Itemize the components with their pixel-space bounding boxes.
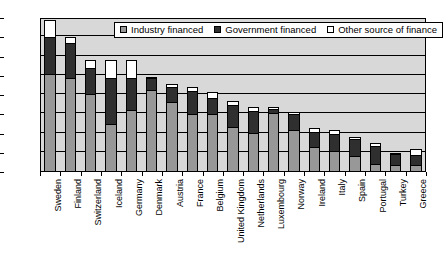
bar-stack xyxy=(370,143,381,172)
y-axis-tick-mark xyxy=(0,95,4,96)
x-axis-label-luxembourg: Luxembourg xyxy=(277,179,286,229)
bar-segment-industry xyxy=(65,78,76,172)
y-axis-tick-mark xyxy=(0,153,4,154)
x-axis-label-switzerland: Switzerland xyxy=(94,179,103,226)
y-axis: 0.00.51.01.52.02.53.03.54.0 xyxy=(0,0,40,190)
bar-segment-government xyxy=(309,132,320,147)
legend-label: Other source of finance xyxy=(338,25,437,35)
bar-segment-other xyxy=(105,60,116,77)
bar-stack xyxy=(268,107,279,172)
x-axis-label-iceland: Iceland xyxy=(115,179,124,208)
x-axis-tick-mark xyxy=(385,172,386,176)
y-axis-tick-mark xyxy=(0,114,4,115)
bar-stack xyxy=(126,60,137,172)
x-axis-label-finland: Finland xyxy=(74,179,83,209)
x-axis-tick-mark xyxy=(142,172,143,176)
bar-segment-government xyxy=(227,105,238,127)
x-axis-label-greece: Greece xyxy=(419,179,428,209)
bar-segment-government xyxy=(390,154,401,165)
bar-stack xyxy=(309,128,320,172)
x-axis-label-ireland: Ireland xyxy=(318,179,327,207)
bar-stack xyxy=(65,37,76,172)
bar-stack xyxy=(207,92,218,172)
x-axis-label-sweden: Sweden xyxy=(54,179,63,212)
y-axis-tick-mark xyxy=(0,18,4,19)
bar-segment-government xyxy=(146,78,157,90)
legend-item: Industry financed xyxy=(120,25,203,35)
x-axis-label-denmark: Denmark xyxy=(155,179,164,216)
bar-segment-industry xyxy=(166,102,177,172)
bar-segment-industry xyxy=(105,124,116,172)
bar-segment-government xyxy=(207,98,218,115)
x-axis-label-france: France xyxy=(196,179,205,207)
bar-segment-industry xyxy=(268,113,279,172)
legend-item: Government financed xyxy=(214,25,316,35)
y-axis-tick-mark xyxy=(0,57,4,58)
bar-segment-other xyxy=(85,60,96,68)
x-axis-tick-mark xyxy=(223,172,224,176)
x-axis-label-germany: Germany xyxy=(135,179,144,216)
y-axis-tick-mark xyxy=(0,76,4,77)
industry-swatch xyxy=(120,26,127,33)
bar-stack xyxy=(349,137,360,172)
x-axis-label-belgium: Belgium xyxy=(216,179,225,212)
bar-segment-industry xyxy=(410,165,421,172)
bar-stack xyxy=(166,84,177,172)
bar-segment-government xyxy=(187,91,198,114)
legend-label: Government financed xyxy=(225,25,316,35)
bar-stack xyxy=(105,60,116,172)
bar-segment-government xyxy=(349,139,360,156)
x-axis-label-united-kingdom: United Kingdom xyxy=(237,179,246,243)
bar-segment-government xyxy=(85,68,96,94)
bar-segment-other xyxy=(44,20,55,37)
bar-segment-industry xyxy=(370,164,381,172)
y-axis-tick-mark xyxy=(0,172,4,173)
bar-segment-government xyxy=(248,111,259,133)
x-axis-tick-mark xyxy=(284,172,285,176)
bar-stack xyxy=(390,153,401,172)
x-axis-tick-mark xyxy=(304,172,305,176)
x-axis-label-portugal: Portugal xyxy=(379,179,388,213)
bar-stack xyxy=(329,130,340,172)
x-axis-label-spain: Spain xyxy=(358,179,367,202)
bar-stack xyxy=(146,77,157,172)
bars-layer xyxy=(40,18,426,172)
bar-segment-industry xyxy=(44,74,55,172)
x-axis-label-norway: Norway xyxy=(297,179,306,210)
bar-stack xyxy=(248,107,259,172)
x-axis-tick-mark xyxy=(60,172,61,176)
bar-segment-industry xyxy=(349,156,360,172)
bar-segment-industry xyxy=(85,94,96,172)
bar-segment-government xyxy=(166,87,177,102)
x-axis-tick-mark xyxy=(182,172,183,176)
bar-segment-industry xyxy=(248,133,259,172)
stacked-bar-chart: 0.00.51.01.52.02.53.03.54.0 SwedenFinlan… xyxy=(0,0,446,260)
x-axis-tick-mark xyxy=(81,172,82,176)
bar-segment-government xyxy=(126,78,137,110)
other-swatch xyxy=(327,26,334,33)
bar-segment-industry xyxy=(187,114,198,172)
x-axis-tick-mark xyxy=(243,172,244,176)
x-axis-label-turkey: Turkey xyxy=(399,179,408,206)
x-axis-tick-mark xyxy=(263,172,264,176)
x-axis-tick-mark xyxy=(365,172,366,176)
x-axis-tick-mark xyxy=(40,172,41,176)
bar-stack xyxy=(410,149,421,172)
legend-item: Other source of finance xyxy=(327,25,437,35)
bar-segment-industry xyxy=(227,127,238,172)
bar-stack xyxy=(44,20,55,172)
x-axis-label-austria: Austria xyxy=(176,179,185,207)
bar-stack xyxy=(187,87,198,172)
chart-legend: Industry financedGovernment financedOthe… xyxy=(114,22,443,38)
bar-segment-industry xyxy=(288,130,299,172)
government-swatch xyxy=(214,26,221,33)
bar-segment-government xyxy=(410,155,421,165)
x-axis-label-netherlands: Netherlands xyxy=(257,179,266,228)
x-axis-tick-mark xyxy=(406,172,407,176)
x-axis-tick-mark xyxy=(101,172,102,176)
x-axis-tick-mark xyxy=(162,172,163,176)
bar-stack xyxy=(227,101,238,172)
y-axis-tick-mark xyxy=(0,37,4,38)
bar-segment-government xyxy=(329,134,340,151)
bar-segment-industry xyxy=(207,114,218,172)
